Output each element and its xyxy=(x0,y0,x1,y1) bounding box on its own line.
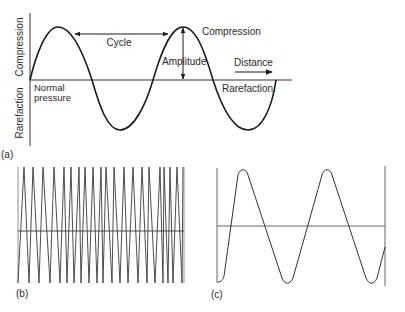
amplitude-label: Amplitude xyxy=(162,56,207,67)
rarefaction-trough-label: Rarefaction xyxy=(222,83,273,94)
low-frequency-wave xyxy=(218,170,385,284)
panel-a: Compression Rarefaction Normal pressure … xyxy=(1,13,292,160)
rarefaction-axis-label: Rarefaction xyxy=(14,87,25,138)
sound-wave-figure: Compression Rarefaction Normal pressure … xyxy=(0,0,405,312)
normal-label-line2: pressure xyxy=(34,92,71,103)
distance-label: Distance xyxy=(234,57,273,68)
high-frequency-wave xyxy=(18,167,183,283)
cycle-label: Cycle xyxy=(106,37,131,48)
compression-axis-label: Compression xyxy=(14,18,25,77)
panel-c: (c) xyxy=(211,166,385,300)
compression-peak-label: Compression xyxy=(202,26,261,37)
panel-b: (b) xyxy=(16,167,184,299)
panel-a-tag: (a) xyxy=(1,149,13,160)
panel-c-tag: (c) xyxy=(211,289,223,300)
panel-b-tag: (b) xyxy=(16,288,28,299)
sine-wave xyxy=(30,27,276,130)
